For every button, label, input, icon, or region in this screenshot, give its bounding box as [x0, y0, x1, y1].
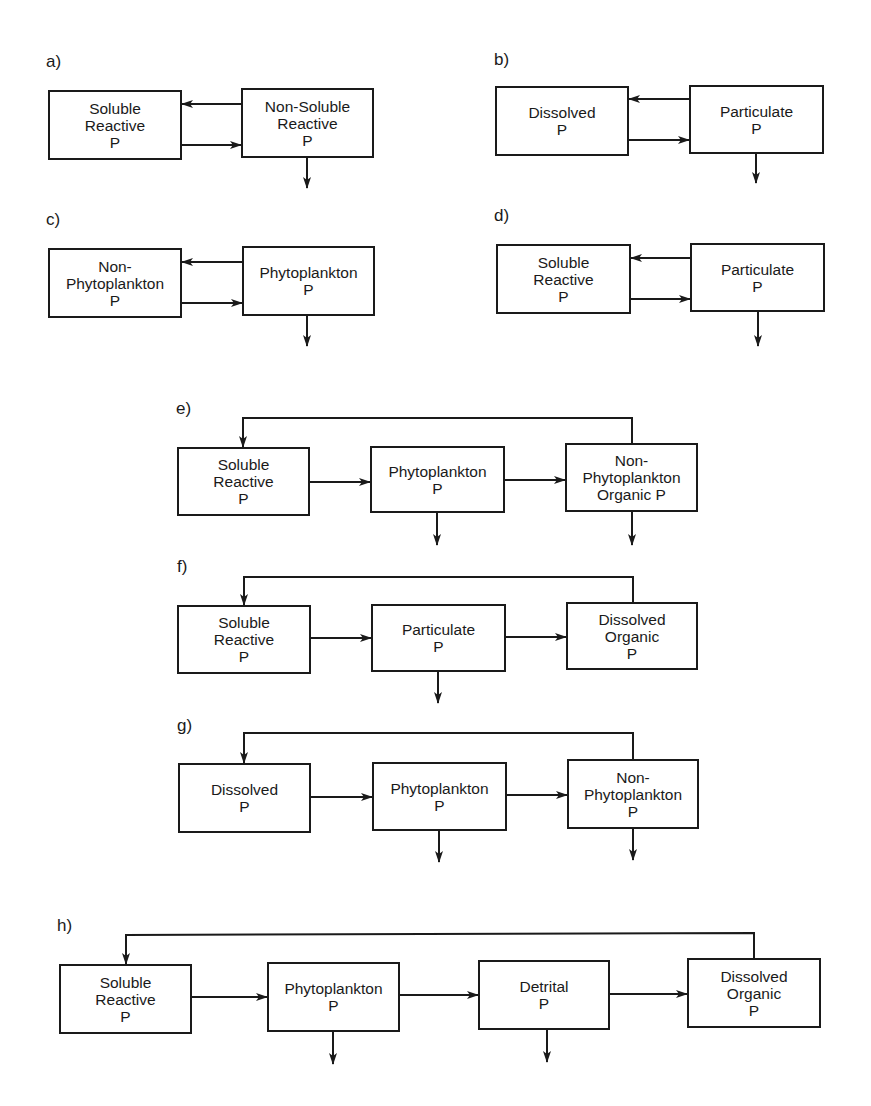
- compartment-label-line: P: [557, 121, 567, 138]
- compartment-box: SolubleReactiveP: [496, 244, 631, 314]
- panel-label-a: a): [46, 53, 61, 71]
- compartment-label-line: Phytoplankton: [259, 264, 357, 281]
- compartment-label-line: P: [239, 648, 249, 665]
- compartment-label-line: Organic: [605, 628, 659, 645]
- compartment-label-line: Non-Soluble: [265, 98, 350, 115]
- compartment-box: PhytoplanktonP: [267, 962, 400, 1032]
- connector-layer: [0, 0, 871, 1106]
- compartment-label-line: P: [238, 490, 248, 507]
- compartment-box: SolubleReactiveP: [59, 964, 192, 1034]
- panel-label-g: g): [177, 717, 192, 735]
- compartment-label-line: Phytoplankton: [584, 786, 682, 803]
- panel-label-b: b): [494, 51, 509, 69]
- compartment-label-line: Dissolved: [211, 781, 278, 798]
- compartment-label-line: Reactive: [213, 473, 273, 490]
- compartment-label-line: Reactive: [85, 117, 145, 134]
- compartment-box: SolubleReactiveP: [177, 605, 311, 674]
- compartment-label-line: Phytoplankton: [582, 469, 680, 486]
- compartment-box: Non-SolubleReactiveP: [241, 88, 374, 158]
- compartment-box: DissolvedOrganicP: [566, 602, 698, 670]
- compartment-box: ParticulateP: [690, 243, 825, 312]
- compartment-label-line: P: [239, 798, 249, 815]
- compartment-label-line: P: [539, 995, 549, 1012]
- panel-label-f: f): [177, 558, 187, 576]
- figure-canvas: a)SolubleReactivePNon-SolubleReactivePb)…: [0, 0, 871, 1106]
- compartment-label-line: P: [110, 134, 120, 151]
- compartment-label-line: Phytoplankton: [284, 980, 382, 997]
- compartment-box: Non-PhytoplanktonP: [567, 759, 699, 829]
- compartment-label-line: P: [120, 1008, 130, 1025]
- compartment-label-line: Reactive: [533, 271, 593, 288]
- compartment-label-line: Detrital: [519, 978, 568, 995]
- panel-label-e: e): [176, 400, 191, 418]
- compartment-label-line: Particulate: [720, 103, 793, 120]
- compartment-label-line: Organic: [727, 985, 781, 1002]
- feedback-loop-arrow-icon: [126, 933, 754, 964]
- compartment-label-line: Dissolved: [720, 968, 787, 985]
- compartment-label-line: P: [752, 278, 762, 295]
- compartment-label-line: Non-: [98, 258, 132, 275]
- clipped-caption-line: [0, 1098, 871, 1106]
- compartment-label-line: Reactive: [95, 991, 155, 1008]
- compartment-label-line: P: [627, 645, 637, 662]
- compartment-box: ParticulateP: [371, 604, 506, 672]
- compartment-label-line: Soluble: [89, 100, 141, 117]
- feedback-loop-arrow-icon: [244, 577, 633, 605]
- panel-label-c: c): [46, 211, 60, 229]
- compartment-label-line: P: [303, 281, 313, 298]
- panel-h-connectors: [126, 933, 754, 1064]
- compartment-label-line: P: [302, 132, 312, 149]
- compartment-label-line: Dissolved: [528, 104, 595, 121]
- compartment-label-line: Phytoplankton: [390, 780, 488, 797]
- compartment-label-line: Dissolved: [598, 611, 665, 628]
- compartment-label-line: P: [628, 803, 638, 820]
- compartment-box: ParticulateP: [689, 85, 824, 154]
- compartment-label-line: Particulate: [402, 621, 475, 638]
- compartment-label-line: Phytoplankton: [388, 463, 486, 480]
- compartment-label-line: Organic P: [597, 486, 666, 503]
- compartment-label-line: Phytoplankton: [66, 275, 164, 292]
- compartment-label-line: P: [558, 288, 568, 305]
- compartment-box: Non-PhytoplanktonOrganic P: [565, 443, 698, 512]
- compartment-box: DissolvedP: [495, 86, 629, 156]
- compartment-box: PhytoplanktonP: [372, 762, 507, 831]
- compartment-label-line: P: [432, 480, 442, 497]
- compartment-label-line: P: [434, 797, 444, 814]
- compartment-label-line: P: [433, 638, 443, 655]
- compartment-label-line: Soluble: [100, 974, 152, 991]
- compartment-box: PhytoplanktonP: [370, 446, 505, 513]
- compartment-label-line: Soluble: [538, 254, 590, 271]
- compartment-box: PhytoplanktonP: [242, 246, 375, 316]
- compartment-label-line: P: [328, 997, 338, 1014]
- compartment-box: SolubleReactiveP: [48, 90, 182, 160]
- compartment-label-line: P: [110, 292, 120, 309]
- panel-label-h: h): [57, 917, 72, 935]
- compartment-label-line: Soluble: [218, 614, 270, 631]
- compartment-label-line: Reactive: [277, 115, 337, 132]
- compartment-box: Non-PhytoplanktonP: [48, 248, 182, 318]
- compartment-box: DetritalP: [478, 960, 610, 1030]
- compartment-box: DissolvedP: [178, 763, 311, 833]
- compartment-label-line: Soluble: [218, 456, 270, 473]
- compartment-label-line: P: [749, 1002, 759, 1019]
- compartment-box: DissolvedOrganicP: [687, 958, 821, 1028]
- compartment-label-line: Non-: [616, 769, 650, 786]
- compartment-label-line: Reactive: [214, 631, 274, 648]
- compartment-label-line: Particulate: [721, 261, 794, 278]
- panel-label-d: d): [494, 207, 509, 225]
- compartment-label-line: Non-: [615, 452, 649, 469]
- compartment-label-line: P: [751, 120, 761, 137]
- compartment-box: SolubleReactiveP: [177, 447, 310, 516]
